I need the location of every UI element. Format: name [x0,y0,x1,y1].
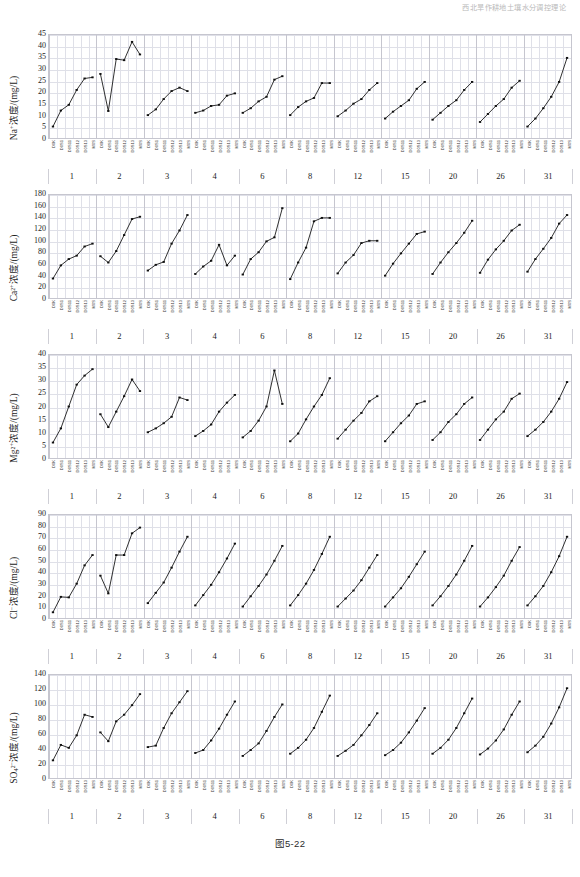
data-point-marker [503,729,505,731]
data-point-marker [107,740,109,742]
data-point-marker [76,255,78,257]
x-axis-group-labels: 1234681215202631 [48,811,572,824]
data-point-marker [518,224,520,226]
x-tick-label: D0K [100,300,104,308]
x-tick-label: D0S13 [512,300,516,313]
x-tick-label: D0S11 [401,300,405,312]
x-group-label: 26 [496,171,505,181]
data-point-marker [487,113,489,115]
series-line [53,244,93,279]
x-tick-label: D0S13 [512,460,516,473]
x-group-label: 31 [544,491,553,501]
series-line [480,394,520,440]
x-tick-label: D0S11 [115,620,119,632]
x-tick-label: D0S12 [362,300,366,313]
x-group-label: 8 [308,651,312,661]
y-tick-label: 60 [38,730,46,738]
data-point-marker [384,754,386,756]
y-axis-label-wrap: SO4²−浓度/(mg/L) [0,668,26,828]
y-tick-label: 20 [38,88,46,96]
data-point-marker [408,731,410,733]
x-group-label: 2 [117,491,121,501]
y-axis-ticks: 051015202530354045 [26,28,48,188]
series-line [100,694,140,741]
x-tick-label: D0S13 [465,460,469,473]
x-tick-label: M0S [187,780,191,788]
x-group-label: 8 [308,491,312,501]
data-point-marker [321,711,323,713]
data-point-marker [131,379,133,381]
data-point-marker [487,429,489,431]
x-tick-label: D0S1 [60,620,64,630]
data-point-marker [344,429,346,431]
x-tick-label: M0S [187,140,191,148]
data-point-marker [479,272,481,274]
x-tick-label: D0S12 [362,780,366,793]
x-tick-label: D0S13 [131,460,135,473]
x-tick-label: D0S11 [449,620,453,632]
x-tick-label: D0S11 [354,780,358,792]
x-tick-label: D0S11 [497,300,501,312]
data-point-marker [123,395,125,397]
x-tick-label: D0S11 [544,780,548,792]
data-point-marker [550,571,552,573]
y-axis-ticks: 0102030405060708090 [26,508,48,668]
series-layer [49,35,571,138]
y-tick-label: 25 [38,77,46,85]
data-point-marker [479,754,481,756]
x-tick-label: D0S1 [155,460,159,470]
data-point-marker [352,103,354,105]
data-point-marker [518,546,520,548]
x-tick-label: M0S [425,780,429,788]
data-point-marker [186,214,188,216]
x-tick-label: D0S12 [123,780,127,793]
x-tick-label: D0S1 [441,780,445,790]
data-point-marker [99,731,101,733]
series-line [148,537,188,603]
data-point-marker [400,105,402,107]
x-tick-label: D0S13 [274,780,278,793]
x-tick-label: D0S12 [219,780,223,793]
x-tick-label: D0S13 [274,300,278,313]
y-tick-label: 5 [42,442,46,450]
x-tick-label: D0S11 [68,300,72,312]
x-tick-label: D0S13 [179,460,183,473]
data-point-marker [511,230,513,232]
x-group-label: 1 [70,811,74,821]
data-point-marker [542,107,544,109]
data-point-marker [147,114,149,116]
x-tick-label: D0S1 [203,460,207,470]
data-point-marker [400,587,402,589]
data-point-marker [329,217,331,219]
data-point-marker [218,728,220,730]
data-point-marker [147,746,149,748]
x-tick-label: D0S13 [84,460,88,473]
data-point-marker [265,96,267,98]
data-point-marker [115,720,117,722]
x-tick-label: M0S [568,620,572,628]
series-line [480,547,520,607]
x-tick-label: M0S [425,460,429,468]
data-point-marker [163,422,165,424]
x-tick-label: D0S13 [84,300,88,313]
data-point-marker [297,594,299,596]
x-tick-label: D0S11 [354,140,358,152]
x-axis-tick-labels: D0KD0S1D0S11D0S12D0S13M0SD0KD0S1D0S11D0S… [48,620,572,650]
y-tick-label: 5 [42,123,46,131]
x-tick-label: D0S1 [393,300,397,310]
data-point-marker [257,251,259,253]
x-tick-label: D0S11 [211,460,215,472]
x-tick-label: D0S11 [306,300,310,312]
data-point-marker [139,527,141,529]
series-line [195,701,235,753]
x-tick-label: D0S13 [560,780,564,793]
data-point-marker [313,406,315,408]
data-point-marker [91,716,93,718]
x-tick-label: M0S [330,460,334,468]
data-point-marker [321,82,323,84]
x-tick-label: D0S12 [409,780,413,793]
x-tick-label: M0S [282,140,286,148]
series-line [528,382,568,436]
series-line [53,555,93,612]
data-point-marker [447,421,449,423]
